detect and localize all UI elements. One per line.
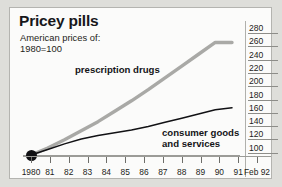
y-axis: 280260240220200180160140120100 [248, 23, 280, 157]
x-axis-tick [201, 157, 202, 163]
x-axis-tick [144, 157, 145, 163]
x-axis: 19808182838485868788899091Feb 92 [23, 156, 273, 184]
y-axis-tick: 260 [248, 36, 278, 47]
series-label-consumer: consumer goods and services [162, 127, 239, 149]
y-axis-tick: 280 [248, 23, 278, 34]
x-axis-label: Feb 92 [241, 167, 273, 177]
x-axis-tick [257, 157, 258, 163]
y-axis-tick: 240 [248, 50, 278, 61]
series-label-consumer-line1: consumer goods [162, 127, 239, 138]
x-axis-bottom-rule [23, 178, 271, 179]
y-axis-tick: 140 [248, 116, 278, 127]
y-axis-tick: 160 [248, 103, 278, 114]
x-axis-tick [238, 157, 239, 163]
y-axis-tick: 220 [248, 63, 278, 74]
series-label-drugs: prescription drugs [75, 64, 160, 75]
x-axis-tick [219, 157, 220, 163]
y-axis-rule [245, 21, 246, 177]
x-axis-tick [163, 157, 164, 163]
y-axis-tick: 200 [248, 76, 278, 87]
x-axis-tick [125, 157, 126, 163]
chart-figure: Pricey pills American prices of: 1980=10… [0, 0, 282, 187]
x-axis-tick [50, 157, 51, 163]
x-axis-tick [88, 157, 89, 163]
x-axis-top-rule [23, 156, 271, 157]
y-axis-tick: 100 [248, 143, 278, 154]
x-axis-tick [182, 157, 183, 163]
y-axis-tick: 180 [248, 90, 278, 101]
x-axis-tick [69, 157, 70, 163]
series-label-consumer-line2: and services [162, 138, 220, 149]
y-axis-tick: 120 [248, 129, 278, 140]
chart-panel: Pricey pills American prices of: 1980=10… [9, 7, 272, 179]
x-axis-tick [106, 157, 107, 163]
x-axis-tick [31, 157, 32, 163]
